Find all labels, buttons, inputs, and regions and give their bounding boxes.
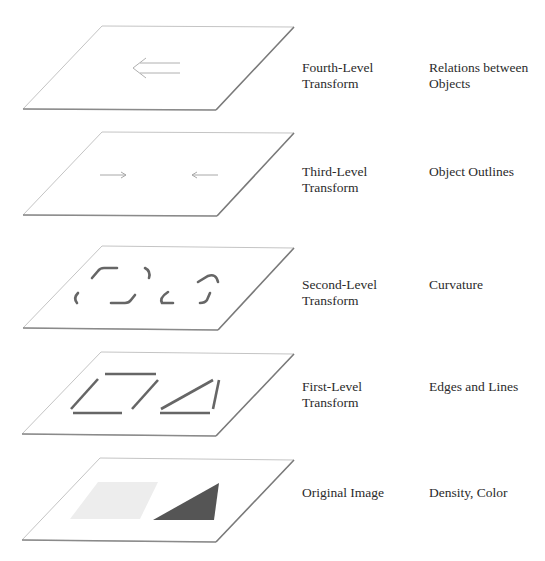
level-label-original: Original Image — [302, 485, 412, 501]
feature-label-line: Curvature — [429, 277, 545, 293]
level-label-second: Second-Level Transform — [302, 277, 412, 309]
feature-label-third: Object Outlines — [429, 164, 545, 180]
feature-label-second: Curvature — [429, 277, 545, 293]
level-label-line: Transform — [302, 395, 412, 411]
level-label-line: Third-Level — [302, 164, 412, 180]
level-label-line: Second-Level — [302, 277, 412, 293]
level-label-fourth: Fourth-Level Transform — [302, 60, 412, 92]
feature-label-original: Density, Color — [429, 485, 545, 501]
level-label-line: Transform — [302, 76, 412, 92]
level-label-line: Transform — [302, 293, 412, 309]
level-label-third: Third-Level Transform — [302, 164, 412, 196]
feature-label-line: Objects — [429, 76, 545, 92]
feature-label-line: Edges and Lines — [429, 379, 545, 395]
plane-original-image — [22, 458, 294, 542]
level-label-line: Fourth-Level — [302, 60, 412, 76]
feature-label-line: Relations between — [429, 60, 545, 76]
level-label-line: Transform — [302, 180, 412, 196]
feature-label-first: Edges and Lines — [429, 379, 545, 395]
feature-label-line: Object Outlines — [429, 164, 545, 180]
plane-third-level — [23, 132, 294, 216]
plane-first-level — [22, 352, 294, 436]
feature-label-line: Density, Color — [429, 485, 545, 501]
plane-fourth-level — [23, 26, 294, 110]
level-label-line: First-Level — [302, 379, 412, 395]
plane-second-level — [23, 246, 294, 330]
level-label-line: Original Image — [302, 485, 412, 501]
feature-label-fourth: Relations between Objects — [429, 60, 545, 92]
level-label-first: First-Level Transform — [302, 379, 412, 411]
